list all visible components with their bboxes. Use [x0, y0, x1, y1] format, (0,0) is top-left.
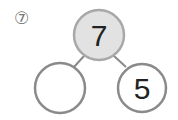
part-circle-left[interactable] — [35, 63, 85, 113]
connector-right — [114, 56, 126, 67]
part-right-value: 5 — [134, 72, 151, 105]
number-bond-diagram: 7 5 — [0, 0, 178, 120]
whole-value: 7 — [91, 19, 108, 52]
connector-left — [74, 56, 84, 67]
